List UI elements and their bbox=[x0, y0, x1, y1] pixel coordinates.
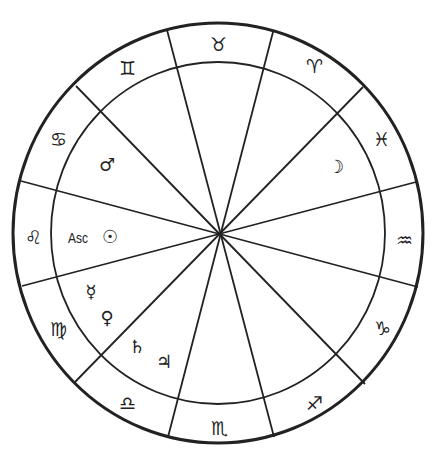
leo-icon: ♌︎ bbox=[25, 228, 42, 247]
libra-icon: ♎︎ bbox=[119, 394, 136, 413]
virgo-icon: ♍︎ bbox=[50, 320, 67, 339]
mercury-icon: ☿︎ bbox=[85, 283, 96, 301]
pisces-icon: ♓︎ bbox=[373, 130, 390, 149]
saturn-icon: ♄︎ bbox=[129, 338, 145, 356]
jupiter-icon: ♃︎ bbox=[156, 353, 172, 371]
sagittarius-icon: ♐︎ bbox=[306, 394, 323, 413]
ascendant-label: Asc bbox=[68, 230, 88, 245]
aries-icon: ♈︎ bbox=[306, 57, 323, 76]
gemini-icon: ♊︎ bbox=[119, 59, 136, 78]
aquarius-icon: ♒︎ bbox=[396, 231, 413, 250]
moon-icon: ☽︎ bbox=[328, 158, 344, 176]
cancer-icon: ♋︎ bbox=[50, 130, 67, 149]
capricorn-icon: ♑︎ bbox=[374, 319, 391, 338]
astrology-chart-wheel bbox=[0, 0, 436, 461]
scorpio-icon: ♏︎ bbox=[211, 419, 228, 438]
sun-icon: ☉︎ bbox=[102, 228, 118, 246]
venus-icon: ♀︎ bbox=[100, 309, 113, 327]
taurus-icon: ♉︎ bbox=[210, 35, 227, 54]
mars-icon: ♂︎ bbox=[99, 156, 115, 174]
